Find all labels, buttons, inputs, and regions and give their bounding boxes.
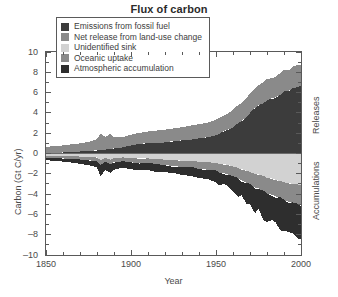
- legend-swatch-icon: [61, 33, 69, 41]
- y-axis-label: Carbon (Gt C/yr): [13, 148, 23, 215]
- x-axis-tick-label: 1950: [196, 260, 236, 269]
- y-axis-tick-label: –10: [14, 251, 38, 260]
- y-axis-tick-label: 4: [14, 108, 38, 117]
- legend-item: Atmospheric accumulation: [61, 64, 202, 74]
- x-axis-tick-label: 1850: [26, 260, 66, 269]
- y-axis-tick-label: 6: [14, 88, 38, 97]
- y-axis-tick-label: –4: [14, 190, 38, 199]
- y-axis-tick-label: 2: [14, 129, 38, 138]
- plot-area: [45, 51, 302, 256]
- legend-item: Unidentified sink: [61, 43, 202, 53]
- legend-item-label: Net release from land-use change: [74, 33, 202, 42]
- x-axis-tick-label: 2000: [281, 260, 321, 269]
- legend-item-label: Unidentified sink: [74, 43, 136, 52]
- stacked-area-plot: [46, 52, 301, 255]
- y-axis-tick-label: –2: [14, 169, 38, 178]
- legend-swatch-icon: [61, 23, 69, 31]
- y-axis-tick-label: –6: [14, 210, 38, 219]
- legend-swatch-icon: [61, 54, 69, 62]
- legend-swatch-icon: [61, 44, 69, 52]
- y-axis-tick-label: 10: [14, 48, 38, 57]
- x-axis-tick-label: 1900: [111, 260, 151, 269]
- y-axis-tick-label: 0: [14, 149, 38, 158]
- legend-item: Oceanic uptake: [61, 53, 202, 63]
- y-axis-tick-label: –8: [14, 230, 38, 239]
- side-label-accumulations: Accumulations: [311, 161, 321, 220]
- chart-title: Flux of carbon: [0, 3, 338, 15]
- legend-item: Net release from land-use change: [61, 32, 202, 42]
- x-axis-label: Year: [45, 276, 302, 286]
- legend-item: Emissions from fossil fuel: [61, 22, 202, 32]
- legend-item-label: Emissions from fossil fuel: [74, 22, 170, 31]
- side-label-releases: Releases: [311, 97, 321, 135]
- legend-swatch-icon: [61, 65, 69, 73]
- chart-legend: Emissions from fossil fuelNet release fr…: [56, 17, 210, 78]
- carbon-flux-figure: Flux of carbon Carbon (Gt C/yr) Year 108…: [0, 0, 338, 297]
- legend-item-label: Oceanic uptake: [74, 54, 133, 63]
- y-axis-tick-label: 8: [14, 68, 38, 77]
- legend-item-label: Atmospheric accumulation: [74, 64, 174, 73]
